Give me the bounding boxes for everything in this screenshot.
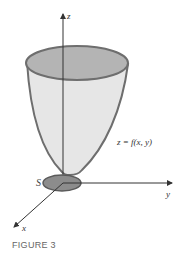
region-label: S — [36, 177, 41, 188]
surface-equation-label: z = f(x, y) — [116, 137, 152, 147]
surface-top-ellipse — [26, 46, 128, 80]
surface-diagram: z y x z = f(x, y) S — [0, 0, 182, 255]
x-axis-label: x — [21, 223, 26, 233]
y-axis-label: y — [165, 189, 170, 199]
x-axis — [14, 183, 63, 227]
figure-caption: FIGURE 3 — [12, 240, 56, 250]
z-axis-label: z — [66, 11, 71, 21]
